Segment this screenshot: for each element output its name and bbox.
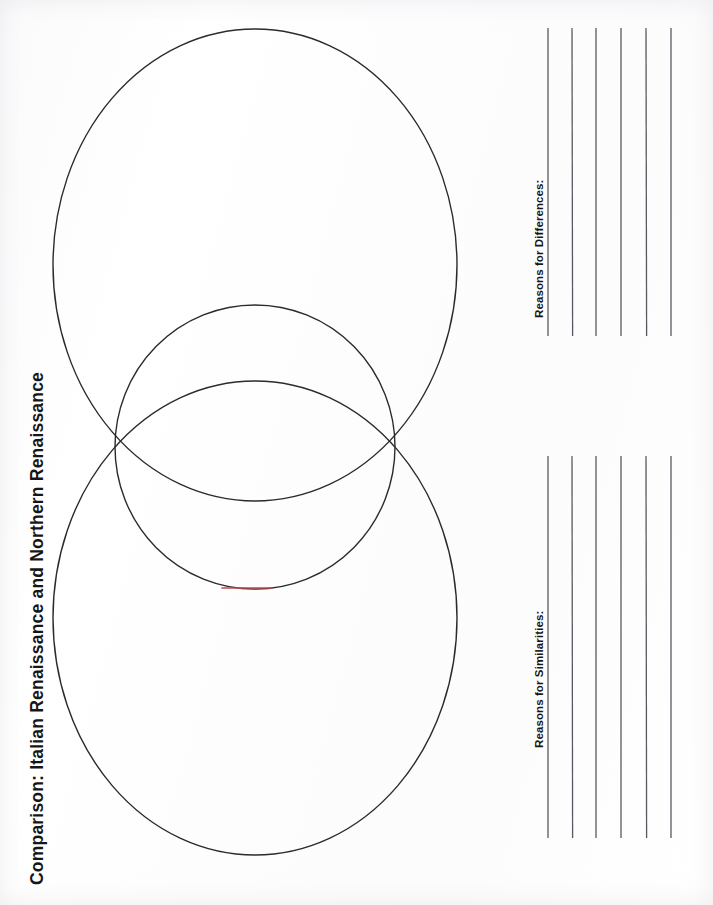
label-reasons-for-similarities: Reasons for Similarities: xyxy=(533,611,545,748)
label-reasons-for-differences: Reasons for Differences: xyxy=(533,179,545,318)
differences-lines xyxy=(548,28,671,336)
writing-line xyxy=(646,28,647,336)
writing-line xyxy=(572,456,573,838)
writing-line xyxy=(572,28,573,336)
page-title: Comparison: Italian Renaissance and Nort… xyxy=(27,372,48,885)
writing-line xyxy=(646,456,647,838)
similarities-lines xyxy=(548,456,671,838)
worksheet-page: Comparison: Italian Renaissance and Nort… xyxy=(0,0,713,905)
writing-lines xyxy=(0,0,713,905)
